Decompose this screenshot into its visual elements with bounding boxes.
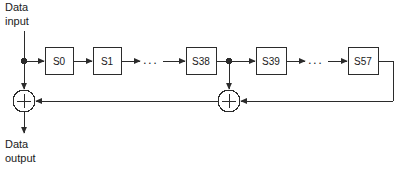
lfsr-diagram: S0 S1 S38 S39 S57 ... ... Data input Dat… [0, 0, 403, 171]
data-output-label-line1: Data [5, 138, 28, 151]
register-label-s38: S38 [192, 56, 210, 67]
junction-input-tap-dot [21, 58, 27, 64]
data-input-label-line1: Data [5, 1, 28, 14]
register-label-s39: S39 [262, 56, 280, 67]
junction-s38-tap-dot [226, 58, 232, 64]
ellipsis-right-icon: ... [308, 53, 323, 66]
register-label-s0: S0 [53, 56, 66, 67]
diagram-canvas: S0 S1 S38 S39 S57 [0, 0, 403, 171]
data-input-label-line2: input [5, 15, 29, 28]
data-output-label-line2: output [5, 152, 36, 165]
wire-s57-feedback [378, 61, 393, 101]
register-label-s57: S57 [354, 56, 372, 67]
register-label-s1: S1 [101, 56, 114, 67]
ellipsis-left-icon: ... [143, 53, 158, 66]
